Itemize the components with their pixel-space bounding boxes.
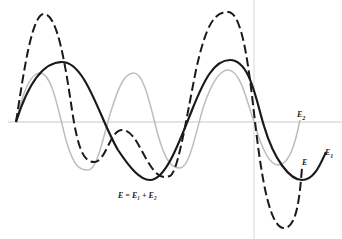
wave-plot — [0, 0, 342, 239]
curve-e2 — [16, 70, 300, 170]
label-e1: E1 — [325, 148, 333, 159]
curve-e-sum — [16, 12, 302, 228]
curve-e1 — [16, 60, 326, 180]
label-e2: E2 — [297, 110, 305, 121]
equation-label: E = E₁ + E₂ — [118, 191, 157, 200]
label-e: E — [302, 158, 307, 167]
superposition-diagram: E2 E1 E E = E₁ + E₂ — [0, 0, 342, 239]
